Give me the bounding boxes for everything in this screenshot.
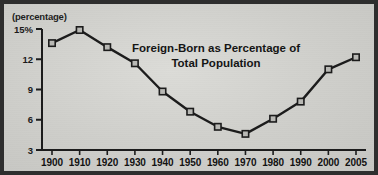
x-axis-tick-label: 1970 <box>235 157 257 168</box>
y-axis-tick-label: 3 <box>28 145 33 156</box>
data-point-marker <box>325 66 331 72</box>
data-point-marker <box>104 44 110 50</box>
x-axis-tick-label: 1930 <box>124 157 146 168</box>
x-axis-tick-label: 2005 <box>345 157 367 168</box>
data-point-marker <box>298 98 304 104</box>
chart-title-line-2: Total Population <box>171 57 260 69</box>
chart-figure: (percentage) 3691215% 190019101920193019… <box>0 0 378 175</box>
chart-title: Foreign-Born as Percentage of Total Popu… <box>132 42 300 69</box>
y-axis-tick-label: 6 <box>28 114 33 125</box>
x-axis-tick-label: 1980 <box>262 157 284 168</box>
data-point-marker <box>132 60 138 66</box>
data-point-marker <box>49 40 55 46</box>
x-axis-tick-label: 1900 <box>41 157 63 168</box>
y-axis-tick-label: 12 <box>22 54 33 65</box>
data-point-marker <box>187 108 193 114</box>
x-axis-tick-label: 1910 <box>69 157 91 168</box>
y-axis-tick-label: 9 <box>28 84 33 95</box>
data-point-marker <box>76 27 82 33</box>
y-axis-tick-label: 15% <box>14 24 34 35</box>
x-axis-tick-label: 2000 <box>317 157 339 168</box>
x-axis-tick-label: 1920 <box>96 157 118 168</box>
data-point-marker <box>270 116 276 122</box>
data-point-marker <box>242 131 248 137</box>
x-axis-tick-label: 1950 <box>179 157 201 168</box>
x-axis-tick-label: 1990 <box>290 157 312 168</box>
x-axis-tick-label: 1960 <box>207 157 229 168</box>
line-chart-plot: 3691215% 1900191019201930194019501960197… <box>4 4 374 171</box>
chart-title-line-1: Foreign-Born as Percentage of <box>132 42 300 54</box>
x-axis-tick-label: 1940 <box>152 157 174 168</box>
data-point-marker <box>159 88 165 94</box>
x-axis-ticks: 1900191019201930194019501960197019801990… <box>41 150 367 168</box>
data-point-marker <box>353 54 359 60</box>
y-axis-ticks: 3691215% <box>14 24 42 156</box>
data-point-marker <box>215 124 221 130</box>
